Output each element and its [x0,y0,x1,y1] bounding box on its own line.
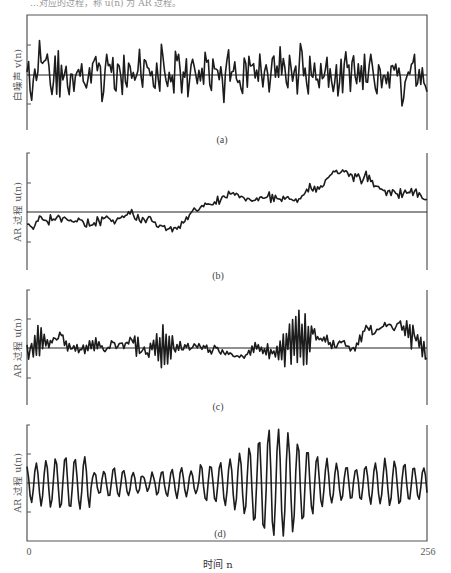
panel-b-caption: (b) [212,270,224,282]
panel-a-caption: (a) [216,134,227,146]
panel-b-ylabel: AR 过程 u(n) [12,182,23,243]
panel-c-waveform [27,310,427,367]
panel-c-caption: (c) [212,401,223,413]
panel-d-caption: (d) [214,528,226,540]
panel-a-frame [27,15,427,130]
panel-c: AR 过程 u(n) (c) [12,290,427,413]
panel-c-ylabel: AR 过程 u(n) [12,318,23,379]
header-fragment: …对应的过程，称 u(n) 为 AR 过程。 [30,0,181,8]
x-axis-label: 时间 n [203,558,233,570]
figure-ar-processes: …对应的过程，称 u(n) 为 AR 过程。 白噪声 v(n) (a) AR 过… [0,0,451,573]
panel-b-waveform [27,170,427,232]
panel-a-ylabel: 白噪声 v(n) [12,49,23,101]
x-tick-256: 256 [421,546,436,557]
panel-a: 白噪声 v(n) (a) [12,15,427,146]
panel-d: AR 过程 u(n) (d) [12,425,427,541]
x-tick-0: 0 [27,546,32,557]
panel-b: AR 过程 u(n) (b) [12,153,427,282]
panel-a-waveform [27,41,427,106]
panel-d-ylabel: AR 过程 u(n) [12,453,23,514]
